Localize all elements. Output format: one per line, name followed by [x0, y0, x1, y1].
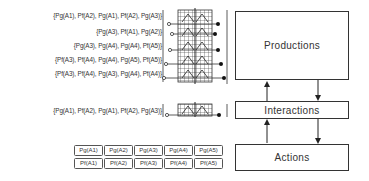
cell-text: Pf(A1) [80, 160, 97, 166]
network-grid-top [178, 8, 212, 84]
cell-text: Pf(A5) [200, 160, 217, 166]
productions-label: Productions [264, 40, 320, 51]
cell-pg-a5: Pg(A5) [194, 145, 223, 156]
cell-pf-a3: Pf(A3) [134, 158, 163, 169]
cell-text: Pg(A3) [139, 147, 158, 153]
cell-pg-a1: Pg(A1) [74, 145, 103, 156]
network-grid-bottom [165, 102, 221, 117]
cell-text: Pg(A5) [199, 147, 218, 153]
cell-pg-a3: Pg(A3) [134, 145, 163, 156]
interactions-box: Interactions [235, 101, 349, 119]
cell-pf-a5: Pf(A5) [194, 158, 223, 169]
output-dots-top [213, 22, 226, 80]
cell-text: Pf(A2) [110, 160, 127, 166]
cell-text: Pf(A3) [140, 160, 157, 166]
cell-pg-a2: Pg(A2) [104, 145, 133, 156]
cell-pf-a4: Pf(A4) [164, 158, 193, 169]
cell-pf-a2: Pf(A2) [104, 158, 133, 169]
cell-pg-a4: Pg(A4) [164, 145, 193, 156]
cell-text: Pg(A4) [169, 147, 188, 153]
interactions-label: Interactions [264, 105, 319, 116]
cell-text: Pf(A4) [170, 160, 187, 166]
cell-text: Pg(A1) [79, 147, 98, 153]
cell-text: Pg(A2) [109, 147, 128, 153]
cell-pf-a1: Pf(A1) [74, 158, 103, 169]
productions-box: Productions [235, 11, 349, 80]
actions-label: Actions [275, 152, 310, 163]
actions-box: Actions [235, 144, 349, 171]
